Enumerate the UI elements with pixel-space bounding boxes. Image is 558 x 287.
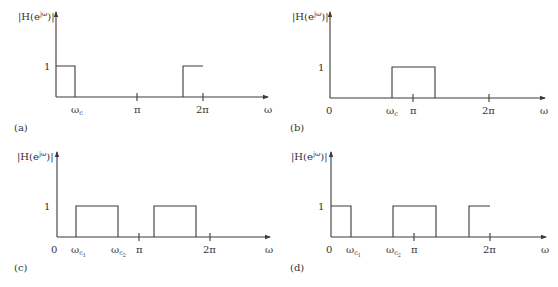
tick-label-omega-c2: ωc2 — [111, 244, 126, 258]
level-one-label: 1 — [318, 62, 324, 73]
y-axis-label: |H(ejω)| — [17, 150, 54, 163]
x-axis-label: ω — [264, 104, 272, 115]
passband-lowpass — [56, 66, 75, 97]
level-one-label: 1 — [44, 201, 50, 212]
passband-mid — [393, 206, 436, 237]
tick-label-omega-c: ωc — [386, 105, 398, 118]
panel-c-bandpass: |H(ejω)| 1 0 ωc1 ωc2 π 2π ω (c) — [14, 150, 273, 273]
passband-repeat — [183, 66, 203, 97]
tick-label-omega-c1: ωc1 — [71, 244, 86, 258]
origin-label: 0 — [326, 244, 332, 255]
tick-label-pi: π — [411, 244, 418, 255]
origin-label: 0 — [326, 105, 332, 116]
tick-label-pi: π — [136, 244, 143, 255]
filter-response-figure: |H(ejω)| 1 ωc π 2π ω (a) |H(ejω)| 1 0 ωc… — [0, 0, 558, 287]
tick-label-2pi: 2π — [482, 105, 495, 116]
panel-caption-c: (c) — [14, 262, 28, 273]
tick-label-omega-c: ωc — [71, 104, 83, 117]
x-axis-label: ω — [540, 105, 548, 116]
panel-b-highpass: |H(ejω)| 1 0 ωc π 2π ω (b) — [290, 10, 548, 133]
x-axis-label: ω — [265, 244, 273, 255]
level-one-label: 1 — [44, 61, 50, 72]
y-axis-label: |H(ejω)| — [18, 10, 55, 23]
origin-label: 0 — [51, 244, 57, 255]
tick-label-omega-c2: ωc2 — [386, 244, 401, 258]
tick-label-2pi: 2π — [483, 244, 496, 255]
tick-label-pi: π — [410, 105, 417, 116]
panel-caption-a: (a) — [14, 122, 28, 133]
tick-label-2pi: 2π — [203, 244, 216, 255]
passband-low — [331, 206, 351, 237]
passband-2 — [154, 206, 196, 237]
panel-caption-d: (d) — [290, 262, 304, 273]
passband-highpass — [392, 67, 435, 98]
tick-label-pi: π — [134, 104, 141, 115]
tick-label-2pi: 2π — [196, 104, 209, 115]
y-axis-label: |H(ejω)| — [292, 10, 329, 23]
panel-a-lowpass: |H(ejω)| 1 ωc π 2π ω (a) — [14, 10, 272, 133]
level-one-label: 1 — [318, 201, 324, 212]
passband-high — [469, 206, 490, 237]
tick-label-omega-c1: ωc1 — [346, 244, 361, 258]
passband-1 — [76, 206, 118, 237]
panel-caption-b: (b) — [290, 122, 304, 133]
x-axis-label: ω — [541, 244, 549, 255]
panel-d-bandstop: |H(ejω)| 1 0 ωc1 ωc2 π 2π ω (d) — [290, 150, 549, 273]
y-axis-label: |H(ejω)| — [291, 150, 328, 163]
